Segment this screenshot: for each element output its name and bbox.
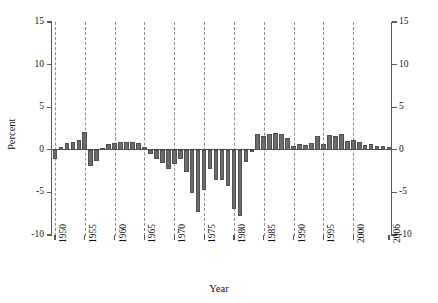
x-tick-label-1970: 1970: [178, 224, 188, 243]
x-tick-2006: [388, 235, 389, 240]
bar-1986: [267, 134, 272, 149]
bar-chart-figure: 151050-5-10 151050-5-10 1950195519601965…: [0, 0, 438, 303]
bar-1966: [148, 150, 153, 154]
y-tick-right-0: [392, 149, 397, 150]
bar-2003: [369, 144, 374, 150]
y-tick-label-right-5: 5: [399, 102, 404, 112]
y-tick-label-right-10: 10: [399, 60, 409, 70]
y-tick-left--5: [47, 192, 52, 193]
y-tick-label-left-5: 5: [39, 102, 44, 112]
bar-2004: [375, 146, 380, 150]
bar-1997: [333, 136, 338, 150]
bar-1961: [118, 142, 123, 150]
bar-1959: [106, 144, 111, 150]
bar-1996: [327, 135, 332, 149]
bar-1976: [208, 150, 213, 170]
bar-1950: [53, 150, 58, 159]
bar-1984: [255, 134, 260, 150]
x-tick-label-1965: 1965: [148, 224, 158, 243]
y-tick-left-0: [47, 149, 52, 150]
bar-1998: [339, 134, 344, 150]
gridline-1960: [115, 22, 116, 236]
gridline-1970: [174, 22, 175, 236]
bar-1987: [273, 133, 278, 150]
bar-1989: [285, 138, 290, 150]
gridline-1955: [85, 22, 86, 236]
y-tick-left-5: [47, 107, 52, 108]
gridline-1995: [323, 22, 324, 236]
y-tick-label-right-0: 0: [399, 145, 404, 155]
bar-1974: [196, 150, 201, 212]
x-tick-1960: [114, 235, 115, 240]
x-tick-label-1990: 1990: [298, 224, 308, 243]
gridline-1975: [204, 22, 205, 236]
y-tick-right--5: [392, 192, 397, 193]
bar-1970: [172, 150, 177, 164]
bar-1975: [202, 150, 207, 190]
y-tick-left-15: [47, 21, 52, 22]
bar-1994: [315, 136, 320, 150]
bar-1978: [220, 150, 225, 181]
bar-1977: [214, 150, 219, 180]
y-tick-left--10: [47, 234, 52, 235]
bar-2001: [357, 142, 362, 150]
bar-1990: [291, 146, 296, 149]
bar-1952: [65, 143, 70, 150]
y-tick-label-right-15: 15: [399, 17, 409, 27]
bar-1957: [94, 150, 99, 161]
bar-1983: [250, 150, 255, 153]
x-tick-label-1960: 1960: [119, 224, 129, 243]
gridline-1990: [294, 22, 295, 236]
bar-2005: [381, 146, 386, 149]
y-tick-label-left-10: 10: [35, 60, 45, 70]
bar-1992: [303, 145, 308, 150]
bar-1960: [112, 143, 117, 150]
bar-1972: [184, 150, 189, 172]
bar-1985: [261, 136, 266, 150]
bar-1991: [297, 144, 302, 150]
bar-1955: [82, 132, 87, 150]
bar-2000: [351, 140, 356, 150]
x-tick-label-1995: 1995: [327, 224, 337, 243]
bar-1981: [238, 150, 243, 216]
bar-1993: [309, 143, 314, 150]
x-tick-label-1975: 1975: [208, 224, 218, 243]
bar-1953: [71, 142, 76, 150]
x-tick-1970: [174, 235, 175, 240]
y-axis-left-spine: [51, 22, 52, 236]
bar-1999: [345, 141, 350, 150]
bar-1995: [321, 144, 326, 150]
y-tick-label-left-15: 15: [35, 17, 45, 27]
y-tick-label-left-0: 0: [39, 145, 44, 155]
bar-1963: [130, 142, 135, 150]
bar-1965: [142, 147, 147, 150]
x-tick-label-1955: 1955: [89, 224, 99, 243]
y-axis-title: Percent: [6, 119, 17, 151]
y-tick-right-15: [392, 21, 397, 22]
y-tick-right-5: [392, 107, 397, 108]
x-tick-label-2000: 2000: [357, 224, 367, 243]
bar-1964: [136, 143, 141, 150]
bar-1982: [244, 150, 249, 162]
x-tick-label-1985: 1985: [268, 224, 278, 243]
x-tick-1980: [233, 235, 234, 240]
y-tick-right-10: [392, 64, 397, 65]
bar-2006: [387, 147, 392, 150]
bar-1962: [124, 142, 129, 150]
bar-1969: [166, 150, 171, 169]
bar-1954: [77, 140, 82, 149]
bar-1980: [232, 150, 237, 210]
bar-1968: [160, 150, 165, 163]
gridline-1965: [144, 22, 145, 236]
bar-1979: [226, 150, 231, 186]
x-tick-2000: [353, 235, 354, 240]
y-axis-right-spine: [391, 22, 392, 236]
bar-1956: [88, 150, 93, 166]
x-tick-label-1980: 1980: [238, 224, 248, 243]
gridline-1950: [55, 22, 56, 236]
x-tick-1995: [323, 235, 324, 240]
x-tick-1975: [204, 235, 205, 240]
gridline-2000: [353, 22, 354, 236]
x-tick-1985: [263, 235, 264, 240]
bar-1951: [59, 147, 64, 150]
